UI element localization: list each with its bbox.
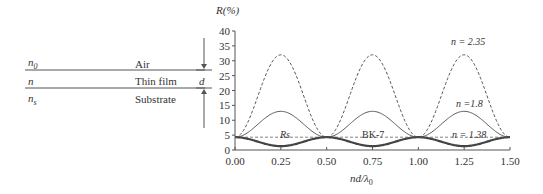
y-tick-label: 20 [219, 85, 231, 97]
annotation-n18: n =1.8 [456, 98, 483, 110]
thickness-label: d [199, 75, 205, 87]
x-tick-label: 1.25 [455, 155, 475, 167]
substrate-label: Substrate [135, 93, 176, 105]
annotation-n138: n = 1.38 [452, 129, 486, 141]
x-tick-label: 1.50 [500, 155, 520, 167]
series-n-2-35 [235, 55, 510, 137]
annotation-bk7: BK-7 [362, 129, 384, 141]
x-tick-label: 0.75 [363, 155, 383, 167]
n0-label: n0 [28, 56, 38, 73]
y-tick-label: 35 [219, 40, 231, 52]
y-tick-label: 10 [219, 114, 231, 126]
x-tick-label: 0.50 [317, 155, 337, 167]
ns-label: ns [28, 92, 37, 109]
x-tick-label: 0.00 [225, 155, 245, 167]
air-label: Air [135, 58, 150, 70]
y-tick-label: 5 [225, 129, 231, 141]
x-axis-label: nd/λ0 [350, 172, 373, 189]
y-tick-label: 25 [219, 70, 231, 82]
y-axis-label: R(%) [216, 4, 239, 16]
x-tick-label: 0.25 [271, 155, 291, 167]
x-tick-label: 1.00 [409, 155, 429, 167]
annotation-n235: n = 2.35 [451, 36, 485, 48]
annotation-rs: Rs [280, 129, 290, 141]
y-tick-label: 40 [219, 25, 231, 37]
y-tick-label: 15 [219, 99, 231, 111]
y-tick-label: 30 [219, 55, 231, 67]
thin-film-label: Thin film [135, 75, 177, 87]
reflectance-chart: 05101520253035400.000.250.500.751.001.25… [0, 0, 543, 194]
n-label: n [28, 75, 34, 87]
